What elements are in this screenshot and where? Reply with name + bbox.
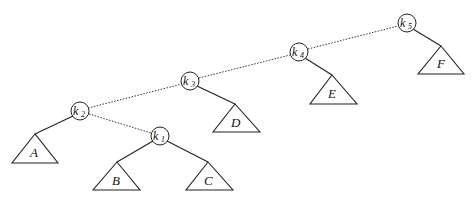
edge-k1-C: [167, 141, 208, 162]
edge-k3-D: [197, 86, 235, 104]
subtree-label-D: D: [230, 115, 241, 130]
subtree-E: E: [310, 75, 357, 104]
node-subscript-k5: 5: [408, 22, 412, 31]
node-k4: k 4: [290, 43, 308, 61]
subtree-label-B: B: [112, 173, 120, 188]
node-label-k2: k: [73, 104, 79, 118]
subtree-B: B: [93, 162, 140, 190]
node-subscript-k2: 2: [81, 110, 85, 119]
subtree-A: A: [12, 134, 58, 163]
node-label-k4: k: [292, 45, 298, 59]
edge-k2-k1: [89, 114, 151, 133]
edge-k5-F: [413, 29, 441, 46]
subtree-C: C: [186, 162, 233, 190]
edge-k2-A: [35, 116, 73, 134]
node-label-k3: k: [183, 74, 189, 88]
edge-k3-k4: [199, 55, 290, 78]
node-subscript-k4: 4: [300, 51, 304, 60]
node-k3: k 3: [181, 72, 199, 90]
subtree-D: D: [213, 104, 260, 132]
node-k1: k 1: [151, 127, 169, 145]
edge-k2-k3: [88, 84, 182, 108]
tree-diagram: A B C D E F k 2 k 1 k 3 k 4 k: [0, 0, 475, 202]
edge-k4-E: [305, 58, 332, 75]
node-label-k5: k: [400, 16, 406, 30]
solid-edges: [35, 29, 441, 162]
edge-k4-k5: [308, 26, 398, 49]
subtree-label-F: F: [436, 56, 446, 71]
node-subscript-k3: 3: [190, 80, 195, 89]
node-label-k1: k: [153, 129, 159, 143]
node-k2: k 2: [71, 102, 89, 120]
subtree-label-A: A: [29, 145, 38, 160]
subtree-label-C: C: [204, 173, 213, 188]
node-k5: k 5: [398, 14, 416, 32]
subtree-F: F: [418, 46, 464, 74]
edge-k1-B: [117, 141, 153, 162]
node-subscript-k1: 1: [161, 135, 165, 144]
subtree-label-E: E: [327, 86, 336, 101]
